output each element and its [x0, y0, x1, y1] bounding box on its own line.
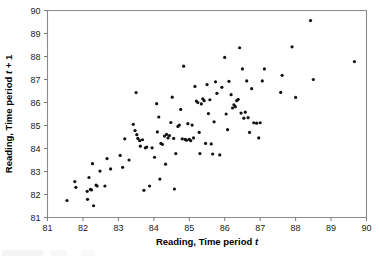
data-point — [261, 79, 264, 82]
data-point — [279, 91, 282, 94]
data-point — [244, 111, 247, 114]
x-tick-label: 89 — [326, 223, 336, 233]
data-point — [171, 96, 174, 99]
data-point — [205, 83, 208, 86]
data-point — [168, 134, 171, 137]
data-point — [234, 105, 237, 108]
y-tick-label: 87 — [30, 75, 40, 85]
data-point — [181, 137, 184, 140]
data-point — [158, 177, 161, 180]
y-tick-label: 86 — [30, 98, 40, 108]
x-tick-label: 90 — [361, 223, 371, 233]
data-point — [210, 142, 213, 145]
data-point — [135, 91, 138, 94]
data-point — [259, 121, 262, 124]
data-point — [109, 167, 112, 170]
data-point — [142, 189, 145, 192]
data-point — [245, 79, 248, 82]
data-point — [148, 184, 151, 187]
data-point — [225, 112, 228, 115]
data-point — [231, 106, 234, 109]
data-point — [198, 131, 201, 134]
data-point — [90, 188, 93, 191]
data-point — [237, 98, 240, 101]
data-point — [223, 56, 226, 59]
data-point — [257, 136, 260, 139]
y-tick-label: 83 — [30, 167, 40, 177]
data-point — [353, 60, 356, 63]
cut-off-caption-strip — [2, 250, 120, 256]
x-axis-tick-labels: 81828384858687888990 — [42, 223, 371, 233]
data-point — [87, 176, 90, 179]
data-point — [86, 198, 89, 201]
data-point — [214, 80, 217, 83]
data-point — [65, 199, 68, 202]
y-tick-label: 88 — [30, 52, 40, 62]
data-point — [198, 152, 201, 155]
data-point — [226, 128, 229, 131]
y-tick-label: 84 — [30, 144, 40, 154]
data-point — [145, 146, 148, 149]
x-axis-title: Reading, Time period t — [156, 236, 259, 247]
data-point — [91, 162, 94, 165]
data-point — [173, 187, 176, 190]
data-point — [185, 139, 188, 142]
data-point — [186, 122, 189, 125]
data-point — [178, 123, 181, 126]
data-point — [207, 112, 210, 115]
data-point — [241, 67, 244, 70]
data-point — [212, 120, 215, 123]
data-point — [191, 123, 194, 126]
x-tick-label: 81 — [42, 223, 52, 233]
data-point — [86, 190, 89, 193]
data-point — [164, 163, 167, 166]
data-point — [161, 143, 164, 146]
x-tick-label: 87 — [255, 223, 265, 233]
data-point — [133, 129, 136, 132]
data-point — [155, 102, 158, 105]
data-point — [208, 98, 211, 101]
data-point — [73, 180, 76, 183]
y-axis-title: Reading, Time period t + 1 — [3, 54, 14, 173]
x-tick-label: 86 — [220, 223, 230, 233]
y-tick-label: 82 — [30, 190, 40, 200]
data-point — [123, 137, 126, 140]
x-tick-label: 82 — [78, 223, 88, 233]
data-point — [230, 93, 233, 96]
data-point — [281, 74, 284, 77]
scatter-plot-figure: 81828384858687888990 8182838485868788899… — [0, 0, 380, 261]
data-point — [153, 156, 156, 159]
data-point — [294, 96, 297, 99]
data-point — [157, 115, 160, 118]
data-point — [250, 87, 253, 90]
data-point — [309, 19, 312, 22]
data-point — [138, 139, 141, 142]
data-point — [189, 139, 192, 142]
x-tick-label: 85 — [184, 223, 194, 233]
data-point — [196, 101, 199, 104]
data-point — [247, 116, 250, 119]
data-point — [141, 138, 144, 141]
y-tick-label: 85 — [30, 121, 40, 131]
data-point — [172, 137, 175, 140]
data-point — [139, 145, 142, 148]
data-point — [74, 186, 77, 189]
x-tick-label: 83 — [113, 223, 123, 233]
data-point — [252, 121, 255, 124]
data-point — [220, 86, 223, 89]
data-point — [179, 108, 182, 111]
data-point — [156, 130, 159, 133]
data-point — [203, 99, 206, 102]
data-point — [255, 122, 258, 125]
data-point — [218, 153, 221, 156]
data-point — [135, 133, 138, 136]
y-tick-label: 90 — [30, 6, 40, 16]
y-tick-label: 89 — [30, 29, 40, 39]
data-point — [193, 85, 196, 88]
data-point — [242, 117, 245, 120]
data-point — [121, 166, 124, 169]
data-point — [239, 111, 242, 114]
data-point — [169, 121, 172, 124]
data-point — [103, 184, 106, 187]
data-point — [204, 142, 207, 145]
